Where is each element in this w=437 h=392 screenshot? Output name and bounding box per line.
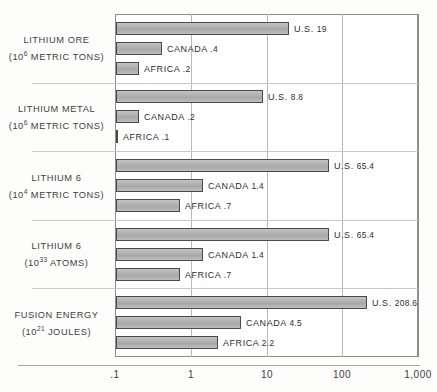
category-label-2: LITHIUM 6(104 METRIC TONS) <box>0 172 113 202</box>
bar-value-label: U.S. 208.6 <box>372 297 417 310</box>
bar-value: .1 <box>162 132 170 142</box>
category-label-exponent: 6 <box>24 119 28 126</box>
bar-series-name: CANADA <box>246 318 289 328</box>
bar-value: 208.6 <box>395 298 417 308</box>
category-label-line1: LITHIUM 6 <box>0 240 113 253</box>
category-label-4: FUSION ENERGY(1021 JOULES) <box>0 309 113 339</box>
bar-series-name: CANADA <box>144 112 187 122</box>
bar-series-name: AFRICA <box>185 201 224 211</box>
bar-series-name: CANADA <box>167 44 210 54</box>
bar-us-4 <box>116 296 367 309</box>
category-label-0: LITHIUM ORE(106 METRIC TONS) <box>0 34 113 64</box>
category-label-1: LITHIUM METAL(106 METRIC TONS) <box>0 103 113 133</box>
category-label-exponent: 33 <box>40 256 48 263</box>
bar-africa-3 <box>116 268 180 281</box>
bar-us-3 <box>116 228 329 241</box>
bar-value: .4 <box>210 44 218 54</box>
category-label-line1: FUSION ENERGY <box>0 309 113 322</box>
bar-canada-0 <box>116 42 162 55</box>
category-label-line2: (106 METRIC TONS) <box>0 47 113 64</box>
bar-value-label: AFRICA 2.2 <box>223 337 274 350</box>
bar-value: 1.4 <box>251 250 264 260</box>
bar-value-label: U.S. 65.4 <box>334 229 374 242</box>
category-label-line2: (106 METRIC TONS) <box>0 116 113 133</box>
category-label-line1: LITHIUM 6 <box>0 172 113 185</box>
bar-series-name: AFRICA <box>123 132 162 142</box>
bar-series-name: U.S. <box>334 230 357 240</box>
category-label-3: LITHIUM 6(1033 ATOMS) <box>0 240 113 270</box>
category-label-line2: (1033 ATOMS) <box>0 253 113 270</box>
bar-canada-1 <box>116 110 139 123</box>
bar-value-label: U.S. 65.4 <box>334 160 374 173</box>
bar-africa-2 <box>116 199 180 212</box>
bar-value-label: AFRICA .2 <box>144 63 190 76</box>
bar-canada-3 <box>116 248 203 261</box>
x-tick-label: .1 <box>110 369 119 380</box>
category-label-exponent: 4 <box>24 188 28 195</box>
bar-value: 4.5 <box>289 318 302 328</box>
bar-us-0 <box>116 22 289 35</box>
bar-value: .2 <box>187 112 195 122</box>
bar-value: 2.2 <box>262 338 275 348</box>
bar-series-name: U.S. <box>334 161 357 171</box>
bar-africa-1 <box>116 130 118 143</box>
category-label-exponent: 6 <box>24 50 28 57</box>
bar-value-label: CANADA 4.5 <box>246 317 302 330</box>
bar-series-name: AFRICA <box>223 338 262 348</box>
bar-africa-4 <box>116 336 218 349</box>
category-label-line2: (104 METRIC TONS) <box>0 185 113 202</box>
bar-africa-0 <box>116 62 139 75</box>
bar-value-label: CANADA 1.4 <box>208 249 264 262</box>
bar-value-label: CANADA .2 <box>144 111 195 124</box>
bar-series-name: CANADA <box>208 250 251 260</box>
bar-series-name: AFRICA <box>144 64 183 74</box>
bar-value: 19 <box>317 24 327 34</box>
lithium-resources-bar-chart: LITHIUM ORE(106 METRIC TONS)LITHIUM META… <box>0 0 437 392</box>
bar-value: .7 <box>224 201 232 211</box>
bar-series-name: CANADA <box>208 181 251 191</box>
bar-value: .2 <box>183 64 191 74</box>
bar-canada-4 <box>116 316 241 329</box>
row-separator <box>32 220 418 221</box>
bar-value: 65.4 <box>357 161 375 171</box>
bar-series-name: AFRICA <box>185 270 224 280</box>
x-tick-label: 1,000 <box>404 369 432 380</box>
bar-series-name: U.S. <box>268 92 291 102</box>
bar-value: 65.4 <box>357 230 375 240</box>
x-tick-label: 1 <box>188 369 194 380</box>
bar-value: 1.4 <box>251 181 264 191</box>
x-tick-label: 10 <box>261 369 273 380</box>
row-separator <box>32 151 418 152</box>
bar-us-2 <box>116 159 329 172</box>
bar-value-label: U.S. 19 <box>294 23 327 36</box>
bar-value-label: AFRICA .7 <box>185 200 231 213</box>
category-label-exponent: 21 <box>37 325 45 332</box>
bar-value-label: AFRICA .1 <box>123 131 169 144</box>
category-label-line2: (1021 JOULES) <box>0 322 113 339</box>
row-separator <box>32 83 418 84</box>
bar-series-name: U.S. <box>372 298 395 308</box>
bar-series-name: U.S. <box>294 24 317 34</box>
x-axis-line <box>18 365 420 366</box>
x-tick-label: 100 <box>333 369 351 380</box>
gridline-1000 <box>418 14 419 357</box>
bar-value: .7 <box>224 270 232 280</box>
bar-value-label: U.S. 8.8 <box>268 91 303 104</box>
bar-canada-2 <box>116 179 203 192</box>
bar-value-label: CANADA 1.4 <box>208 180 264 193</box>
bar-value: 8.8 <box>291 92 304 102</box>
category-label-line1: LITHIUM METAL <box>0 103 113 116</box>
bar-us-1 <box>116 90 263 103</box>
bar-value-label: AFRICA .7 <box>185 269 231 282</box>
bar-value-label: CANADA .4 <box>167 43 218 56</box>
category-label-line1: LITHIUM ORE <box>0 34 113 47</box>
row-separator <box>32 288 418 289</box>
